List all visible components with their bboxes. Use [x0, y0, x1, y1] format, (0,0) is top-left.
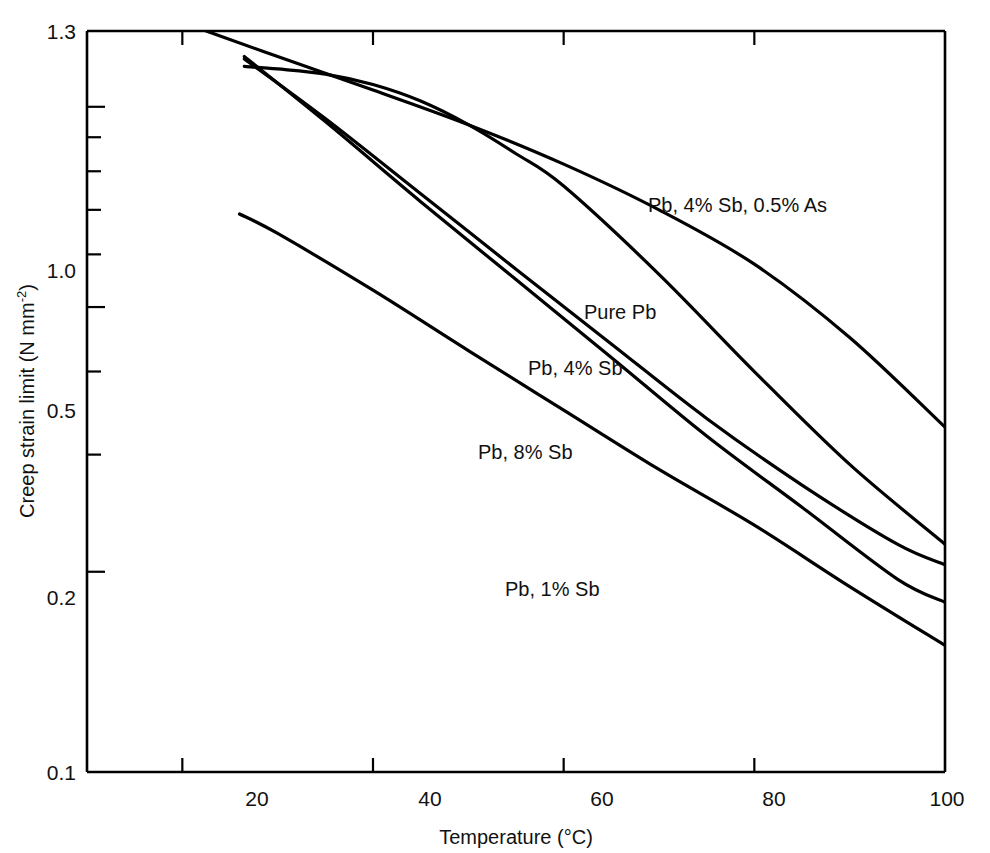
y-tick-label: 1.0 — [47, 259, 76, 282]
x-tick-label: 40 — [418, 787, 441, 810]
curve-label-pb8sb: Pb, 8% Sb — [478, 441, 573, 463]
y-tick-labels: 1.3 1.0 0.5 0.2 0.1 — [47, 20, 76, 784]
y-axis-title: Creep strain limit (N mm-2) — [14, 284, 38, 518]
chart-figure: 20 40 60 80 100 1.3 1.0 0.5 0.2 0.1 Temp… — [0, 0, 990, 853]
curve-label-pure-pb: Pure Pb — [584, 301, 656, 323]
svg-text:Creep strain limit (N mm-2): Creep strain limit (N mm-2) — [14, 284, 38, 518]
x-tick-labels: 20 40 60 80 100 — [245, 787, 964, 810]
x-axis-ticks — [182, 31, 754, 772]
data-curves — [206, 31, 945, 645]
x-tick-label: 80 — [762, 787, 785, 810]
x-tick-label: 20 — [245, 787, 268, 810]
creep-strain-limit-chart: 20 40 60 80 100 1.3 1.0 0.5 0.2 0.1 Temp… — [0, 0, 990, 853]
y-tick-label: 0.1 — [47, 761, 76, 784]
x-axis-title: Temperature (°C) — [439, 826, 593, 848]
y-tick-label: 1.3 — [47, 20, 76, 43]
y-tick-label: 0.5 — [47, 399, 76, 422]
y-axis-ticks — [87, 107, 105, 572]
y-tick-label: 0.2 — [47, 586, 76, 609]
curve-label-pb4sb: Pb, 4% Sb — [528, 357, 623, 379]
curve-label-pb4sb05as: Pb, 4% Sb, 0.5% As — [648, 194, 827, 216]
x-tick-label: 60 — [590, 787, 613, 810]
x-tick-label: 100 — [929, 787, 964, 810]
curve-label-pb1sb: Pb, 1% Sb — [505, 578, 600, 600]
